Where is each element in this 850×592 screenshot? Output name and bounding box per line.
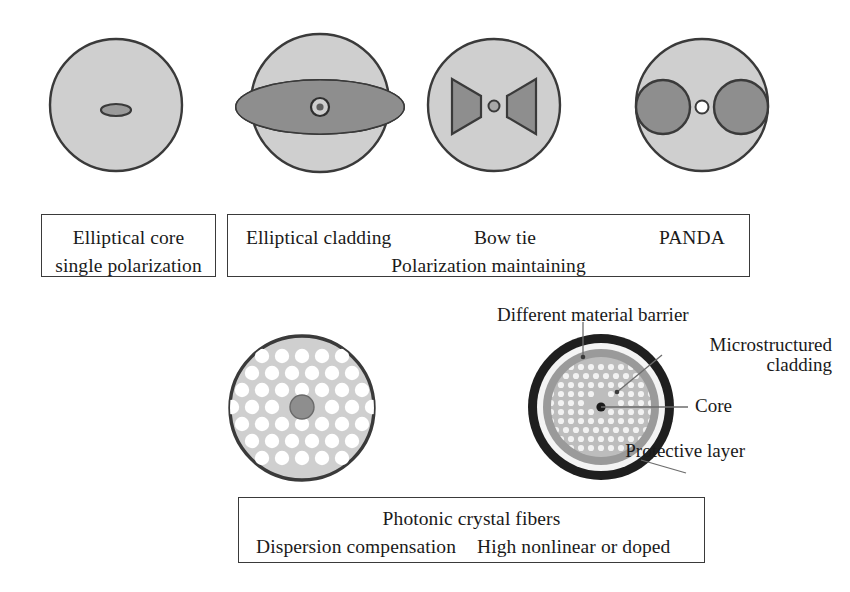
annotation-different-material-barrier: Different material barrier: [497, 305, 689, 325]
panda-fiber: [636, 39, 768, 171]
figure-canvas: Elliptical core single polarization Elli…: [0, 0, 850, 592]
caption-panda: PANDA: [659, 228, 725, 248]
panda-core: [696, 101, 709, 114]
caption-elliptical-core-line1: Elliptical core: [41, 228, 216, 248]
caption-elliptical-cladding: Elliptical cladding: [246, 228, 391, 248]
panda-stress-rod-right: [714, 80, 768, 134]
leader-protective-layer: [641, 460, 686, 473]
bow-tie-core: [489, 101, 500, 112]
leader-dot-barrier: [581, 355, 586, 360]
elliptical-cladding-fiber: [235, 34, 405, 172]
leader-dot-cladding: [615, 390, 620, 395]
photonic-crystal-fiber-solid-core: [225, 336, 379, 480]
caption-polarization-maintaining: Polarization maintaining: [227, 256, 750, 276]
elliptical-cladding-core-center: [316, 103, 323, 110]
caption-elliptical-core-line2: single polarization: [41, 256, 216, 276]
caption-bow-tie: Bow tie: [474, 228, 536, 248]
bow-tie-fiber: [428, 39, 560, 171]
caption-high-nonlinear-or-doped: High nonlinear or doped: [477, 537, 670, 557]
annotation-protective-layer: Protective layer: [580, 441, 745, 461]
elliptical-core-fiber: [50, 39, 182, 171]
annotation-core: Core: [695, 396, 732, 416]
panda-stress-rod-left: [636, 80, 690, 134]
pcf-left-core: [290, 395, 314, 419]
annotation-microstructured-cladding: Microstructured cladding: [672, 335, 832, 375]
caption-photonic-crystal-fibers: Photonic crystal fibers: [238, 509, 705, 529]
elliptical-core-core: [101, 104, 131, 116]
caption-dispersion-compensation: Dispersion compensation: [256, 537, 456, 557]
